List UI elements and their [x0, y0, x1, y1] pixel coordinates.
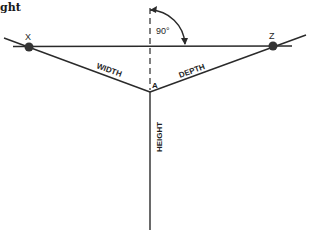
point-z-dot	[269, 42, 278, 51]
point-a-label: A	[152, 81, 158, 90]
angle-label: 90°	[156, 26, 170, 36]
point-x-dot	[25, 43, 34, 52]
isometric-axes-diagram: X Z A 90° WIDTH DEPTH HEIGHT	[0, 0, 313, 234]
depth-axis-line	[150, 35, 306, 92]
point-x-label: X	[25, 32, 31, 42]
horizontal-reference-line	[13, 46, 292, 47]
arc-arrowhead-bottom	[181, 38, 188, 45]
arc-arrowhead-top	[150, 6, 157, 13]
height-axis-label: HEIGHT	[155, 122, 164, 152]
point-z-label: Z	[269, 31, 275, 41]
